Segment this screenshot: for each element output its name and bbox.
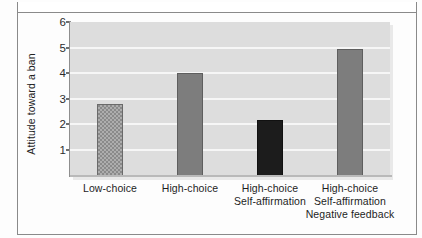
bar-1 — [97, 104, 123, 175]
plot-right-shadow — [390, 25, 393, 177]
y-tick-label-3: 3 — [44, 93, 66, 105]
figure-frame: Attitude toward a ban 123456 Low-choiceH… — [0, 0, 422, 238]
bar-3 — [257, 120, 283, 175]
x-axis-label-4: High-choiceSelf-affirmationNegative feed… — [298, 182, 402, 221]
plot-inner — [70, 22, 390, 175]
y-tick-label-4: 4 — [44, 67, 66, 79]
bar-2 — [177, 73, 203, 175]
y-tick-label-5: 5 — [44, 42, 66, 54]
plot-area — [70, 22, 390, 175]
y-tick-label-6: 6 — [44, 16, 66, 28]
plot-bottom-shadow — [73, 177, 393, 180]
x-axis-line — [70, 175, 392, 177]
y-axis-title: Attitude toward a ban — [25, 29, 37, 179]
bar-4 — [337, 49, 363, 175]
bar-chart: Attitude toward a ban 123456 Low-choiceH… — [0, 0, 422, 238]
y-tick-label-2: 2 — [44, 118, 66, 130]
y-tick-label-1: 1 — [44, 144, 66, 156]
